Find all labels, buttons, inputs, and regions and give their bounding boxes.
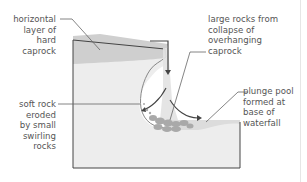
caprock-label: horizontal layer of hard caprock	[6, 14, 56, 56]
plunge-pool-leader	[206, 92, 248, 122]
soft-rock-label: soft rock eroded by small swirling rocks	[4, 99, 56, 152]
large-rocks-label: large rocks from collapse of overhanging…	[208, 14, 298, 56]
plunge-pool-label: plunge pool formed at base of waterfall	[243, 86, 303, 128]
large-rocks-leader	[170, 52, 206, 120]
